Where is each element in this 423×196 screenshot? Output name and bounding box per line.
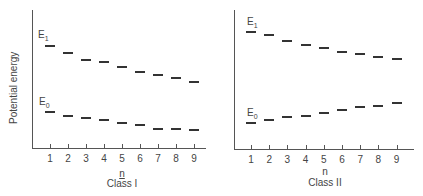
x-tick [324,145,325,149]
energy-level-e1 [337,51,347,53]
energy-level-e1 [135,71,145,73]
x-tick [68,144,69,148]
x-tick [176,144,177,148]
x-tick [104,144,105,148]
x-tick [269,145,270,149]
x-tick [122,144,123,148]
energy-level-e0 [81,117,91,119]
energy-level-e1 [301,44,311,46]
energy-level-e1 [153,74,163,76]
y-axis [32,10,33,149]
energy-level-e0 [282,116,292,118]
x-tick [378,145,379,149]
x-tick-label: 1 [43,153,57,164]
x-tick-label: 5 [115,153,129,164]
energy-level-e1 [81,59,91,61]
energy-level-e0 [153,128,163,130]
energy-level-e1 [392,58,402,60]
x-tick [342,145,343,149]
energy-level-e0 [135,124,145,126]
energy-level-e1 [282,40,292,42]
class-1-label: Class I [92,178,152,189]
energy-level-e0 [189,129,199,131]
energy-level-e1 [63,52,73,54]
x-tick [158,144,159,148]
energy-level-e0 [337,109,347,111]
energy-level-e1 [189,81,199,83]
x-tick-label: 3 [280,154,294,165]
x-tick-label: 8 [371,154,385,165]
energy-level-e0 [171,128,181,130]
x-tick-label: 6 [133,153,147,164]
energy-level-e1 [264,34,274,36]
x-tick-label: 2 [61,153,75,164]
x-axis [234,149,414,150]
x-tick [140,144,141,148]
x-tick-label: 5 [317,154,331,165]
energy-level-e0 [301,115,311,117]
e1-label: E1 [247,16,258,29]
energy-level-e1 [319,47,329,49]
energy-level-e0 [319,112,329,114]
x-tick-label: 1 [244,154,258,165]
x-tick-label: 4 [97,153,111,164]
x-tick-label: 8 [169,153,183,164]
x-axis-label: n [315,166,335,177]
energy-level-e1 [117,66,127,68]
x-tick-label: 4 [299,154,313,165]
x-tick [251,145,252,149]
energy-level-e0 [264,119,274,121]
chart-panel-class-2: 123456789 E1 E0 n Class II [210,0,423,196]
x-tick-label: 3 [79,153,93,164]
x-tick [86,144,87,148]
x-tick [287,145,288,149]
x-tick [194,144,195,148]
x-tick-label: 2 [262,154,276,165]
e0-label: E0 [247,107,258,120]
chart-panel-class-1: Potential energy 123456789 E1 E0 n Class… [0,0,210,196]
energy-level-e0 [392,102,402,104]
energy-level-e0 [117,122,127,124]
x-tick-label: 7 [353,154,367,165]
class-2-label: Class II [295,177,355,188]
energy-level-e0 [63,115,73,117]
energy-level-e1 [45,45,55,47]
energy-level-e1 [99,61,109,63]
energy-level-e0 [45,111,55,113]
energy-level-e0 [373,105,383,107]
energy-level-e1 [373,56,383,58]
e1-label: E1 [38,29,49,42]
x-tick [50,144,51,148]
energy-level-e1 [246,31,256,33]
y-axis [234,10,235,150]
x-tick-label: 7 [151,153,165,164]
energy-level-e1 [171,77,181,79]
x-tick [360,145,361,149]
x-tick-label: 6 [335,154,349,165]
x-tick [306,145,307,149]
x-axis [32,148,206,149]
y-axis-label: Potential energy [8,52,19,124]
e0-label: E0 [39,96,50,109]
x-tick-label: 9 [390,154,404,165]
x-tick-label: 9 [187,153,201,164]
energy-level-e0 [99,119,109,121]
x-tick [397,145,398,149]
energy-level-e0 [246,122,256,124]
energy-level-e0 [355,106,365,108]
energy-level-e1 [355,53,365,55]
